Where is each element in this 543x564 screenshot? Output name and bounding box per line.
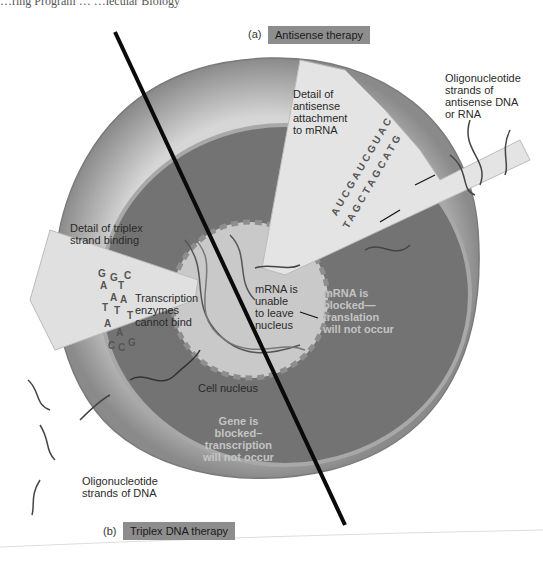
triplex-base: A — [116, 327, 123, 338]
label-triplex-detail: Detail of triplexstrand binding — [70, 222, 143, 246]
label-transcription-enzymes: Transcriptionenzymescannot bind — [135, 292, 198, 328]
triplex-base: G — [110, 272, 118, 283]
triplex-base: C — [118, 342, 125, 353]
running-header: …ring Program … …lecular Biology — [0, 0, 180, 9]
triplex-base: A — [100, 280, 107, 291]
label-mrna-unable: mRNA isunableto leavenucleus — [255, 283, 298, 331]
panel-b-title: Triplex DNA therapy — [123, 522, 235, 540]
triplex-base: G — [128, 337, 136, 348]
label-cell-nucleus: Cell nucleus — [198, 382, 258, 394]
triplex-base: G — [98, 268, 106, 279]
triplex-base: C — [108, 340, 115, 351]
triplex-base: T — [118, 280, 124, 291]
panel-a-title: Antisense therapy — [268, 26, 370, 44]
triplex-base: A — [120, 294, 127, 305]
triplex-base: T — [102, 302, 108, 313]
triplex-base: T — [127, 310, 133, 321]
triplex-base: T — [114, 305, 120, 316]
label-oligo-antisense: Oligonucleotidestrands ofantisense DNAor… — [445, 72, 521, 120]
label-oligo-dna: Oligonucleotidestrands of DNA — [82, 475, 158, 499]
label-mrna-blocked: mRNA isblocked—translationwill not occur — [323, 287, 394, 335]
triplex-base: A — [110, 292, 117, 303]
label-antisense-detail: Detail ofantisenseattachmentto mRNA — [293, 88, 347, 136]
panel-a-letter: (a) — [248, 28, 261, 40]
label-gene-blocked: Gene isblocked–transcriptionwill not occ… — [203, 415, 274, 463]
panel-b-letter: (b) — [103, 525, 116, 537]
triplex-base: A — [104, 318, 111, 329]
triplex-base: C — [124, 270, 131, 281]
